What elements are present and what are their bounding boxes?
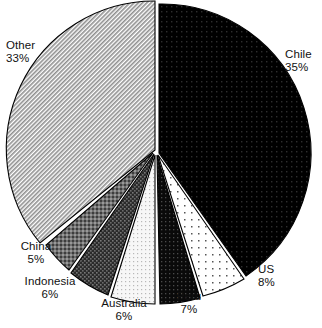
pie-label-chile-value: 35% bbox=[285, 61, 312, 74]
pie-label-indonesia-value: 6% bbox=[25, 288, 76, 301]
pie-label-indonesia-name: Indonesia bbox=[25, 275, 76, 288]
pie-label-australia: Australia 6% bbox=[101, 297, 147, 323]
pie-label-other: Other 33% bbox=[6, 39, 35, 65]
pie-label-indonesia: Indonesia 6% bbox=[25, 275, 76, 301]
pie-label-peru-value: 7% bbox=[177, 303, 202, 316]
pie-label-us-value: 8% bbox=[258, 276, 275, 289]
pie-label-china: China 5% bbox=[21, 240, 52, 266]
pie-label-peru: Peru 7% bbox=[177, 290, 202, 316]
pie-label-china-name: China bbox=[21, 240, 52, 253]
pie-label-australia-value: 6% bbox=[101, 310, 147, 323]
pie-label-other-name: Other bbox=[6, 39, 35, 52]
pie-label-peru-name: Peru bbox=[177, 290, 202, 303]
pie-label-us: US 8% bbox=[258, 263, 275, 289]
pie-label-other-value: 33% bbox=[6, 52, 35, 65]
pie-label-china-value: 5% bbox=[21, 253, 52, 266]
pie-label-australia-name: Australia bbox=[101, 297, 147, 310]
pie-label-chile-name: Chile bbox=[285, 48, 312, 61]
pie-chart: Other 33% Chile 35% US 8% Peru 7% Austra… bbox=[0, 0, 322, 328]
pie-label-us-name: US bbox=[258, 263, 275, 276]
pie-label-chile: Chile 35% bbox=[285, 48, 312, 74]
